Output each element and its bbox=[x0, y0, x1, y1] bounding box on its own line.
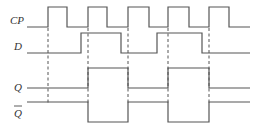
label-q-bar: Q bbox=[14, 107, 22, 119]
signal-waveforms bbox=[27, 7, 250, 122]
timing-diagram: CP D Q Q bbox=[0, 0, 264, 135]
label-cp: CP bbox=[10, 14, 24, 26]
label-d: D bbox=[13, 40, 22, 52]
waveform-d bbox=[27, 33, 250, 53]
waveform-q-bar bbox=[27, 102, 250, 122]
clock-edge-markers bbox=[48, 28, 209, 103]
waveform-q bbox=[27, 68, 250, 88]
waveform-cp bbox=[27, 7, 250, 27]
label-q: Q bbox=[14, 81, 22, 93]
